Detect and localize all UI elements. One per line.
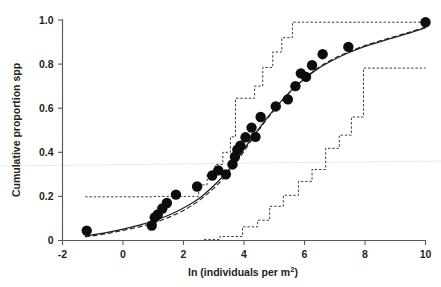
data-point: [301, 72, 311, 82]
y-axis-title: Cumulative proportion spp: [10, 63, 22, 197]
x-tick-label-6: 10: [420, 248, 432, 260]
x-axis-title: ln (individuals per m2): [188, 265, 298, 278]
data-point: [250, 132, 260, 142]
cumulative-proportion-plot: 00.20.40.60.81.0 -20246810 ln (individua…: [0, 0, 441, 287]
x-axis-ticks: -20246810: [58, 241, 432, 260]
upper-confidence-band: [85, 22, 425, 197]
x-tick-label-3: 4: [241, 248, 247, 260]
data-point: [255, 112, 265, 122]
x-tick-label-0: -2: [58, 248, 67, 260]
y-tick-label-4: 0.8: [39, 58, 54, 70]
y-tick-label-3: 0.6: [39, 102, 54, 114]
x-tick-label-1: 0: [120, 248, 126, 260]
y-tick-label-5: 1.0: [39, 14, 54, 26]
data-point-group: [82, 17, 431, 236]
data-point: [221, 169, 231, 179]
data-point: [420, 17, 430, 27]
data-point: [271, 101, 281, 111]
x-tick-label-2: 2: [181, 248, 187, 260]
data-point: [307, 60, 317, 70]
chart-figure: 00.20.40.60.81.0 -20246810 ln (individua…: [0, 0, 441, 287]
data-point: [317, 49, 327, 59]
data-point: [343, 42, 353, 52]
scan-streak-artifact: [0, 161, 441, 166]
data-point: [240, 132, 250, 142]
y-tick-label-0: 0: [48, 234, 54, 246]
data-point: [162, 198, 172, 208]
data-point: [246, 122, 256, 132]
data-point: [171, 189, 181, 199]
x-tick-label-4: 6: [302, 248, 308, 260]
axes: [63, 20, 426, 241]
y-axis-ticks: 00.20.40.60.81.0: [39, 14, 63, 247]
y-tick-label-2: 0.4: [39, 146, 54, 158]
data-point: [192, 181, 202, 191]
y-tick-label-1: 0.2: [39, 190, 54, 202]
x-tick-label-5: 8: [362, 248, 368, 260]
data-point: [82, 225, 92, 235]
x-axis-title-tail: ): [294, 266, 298, 278]
data-point: [283, 94, 293, 104]
data-point: [290, 81, 300, 91]
